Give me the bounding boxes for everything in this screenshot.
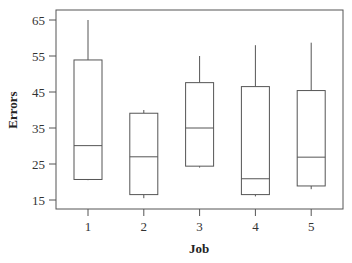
iqr-box [186, 83, 214, 167]
y-axis: 152535455565 [32, 13, 56, 208]
iqr-box [74, 60, 102, 180]
x-tick-label: 1 [85, 219, 92, 234]
y-tick-label: 65 [32, 13, 45, 28]
box-job-5 [297, 43, 325, 190]
box-job-2 [130, 110, 158, 198]
box-job-4 [241, 45, 269, 196]
box-job-3 [186, 56, 214, 168]
box-job-1 [74, 20, 102, 180]
box-plot-chart: 152535455565 12345 Job Errors [0, 0, 352, 263]
boxes [74, 20, 325, 198]
y-tick-label: 25 [32, 157, 45, 172]
x-tick-label: 5 [308, 219, 315, 234]
y-tick-label: 55 [32, 49, 45, 64]
x-tick-label: 4 [252, 219, 259, 234]
x-axis-title: Job [189, 241, 209, 256]
y-tick-label: 35 [32, 121, 45, 136]
y-tick-label: 15 [32, 193, 45, 208]
iqr-box [130, 113, 158, 194]
y-axis-title: Errors [5, 91, 20, 128]
y-tick-label: 45 [32, 85, 45, 100]
x-axis: 12345 [85, 209, 315, 234]
iqr-box [297, 91, 325, 186]
x-tick-label: 3 [196, 219, 203, 234]
x-tick-label: 2 [141, 219, 148, 234]
